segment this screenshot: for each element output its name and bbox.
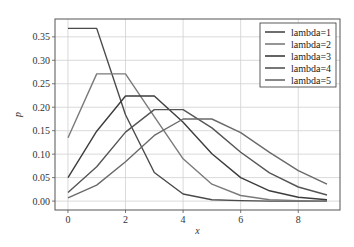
- x-tick-label: 4: [181, 214, 186, 225]
- y-tick-label: 0.00: [33, 196, 51, 207]
- y-tick-label: 0.30: [33, 55, 51, 66]
- y-tick-label: 0.35: [33, 31, 51, 42]
- x-tick-label: 8: [296, 214, 301, 225]
- legend-label: lambda=5: [291, 75, 331, 86]
- y-axis-label: p: [12, 112, 23, 118]
- y-axis-ticks: 0.000.050.100.150.200.250.300.35: [33, 31, 56, 206]
- legend-label: lambda=1: [291, 27, 331, 38]
- poisson-line-chart: 02468 0.000.050.100.150.200.250.300.35 x…: [0, 0, 354, 247]
- x-tick-label: 6: [238, 214, 243, 225]
- x-tick-label: 2: [123, 214, 128, 225]
- x-tick-label: 0: [65, 214, 70, 225]
- y-tick-label: 0.15: [33, 125, 51, 136]
- series-line-lambda-3: [68, 96, 327, 200]
- y-tick-label: 0.05: [33, 172, 51, 183]
- legend-label: lambda=2: [291, 39, 331, 50]
- x-axis-ticks: 02468: [65, 210, 300, 225]
- y-tick-label: 0.10: [33, 149, 51, 160]
- legend-label: lambda=3: [291, 51, 331, 62]
- series-line-lambda-4: [68, 110, 327, 195]
- legend: lambda=1lambda=2lambda=3lambda=4lambda=5: [260, 23, 336, 87]
- y-tick-label: 0.20: [33, 102, 51, 113]
- x-axis-label: x: [194, 225, 200, 236]
- legend-label: lambda=4: [291, 63, 331, 74]
- y-tick-label: 0.25: [33, 78, 51, 89]
